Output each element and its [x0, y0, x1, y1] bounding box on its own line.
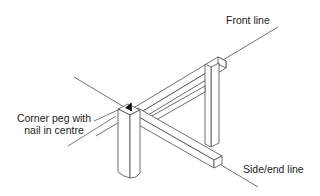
corner-peg [118, 104, 140, 178]
profile-board-diagram: Front line Corner peg with nail in centr… [0, 0, 320, 196]
front-rail-post [205, 63, 219, 147]
side-end-line-label: Side/end line [243, 163, 304, 175]
front-line-label: Front line [226, 14, 270, 26]
corner-peg-label: Corner peg with nail in centre [14, 112, 94, 136]
corner-peg-label-line1: Corner peg with [14, 112, 94, 124]
corner-peg-label-line2: nail in centre [14, 124, 94, 136]
corner-peg-leader-1 [94, 109, 120, 121]
